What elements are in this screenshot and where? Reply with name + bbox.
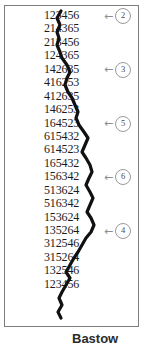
permutation-row: 123456 bbox=[44, 278, 100, 291]
arrow-left-icon: ← bbox=[104, 64, 113, 75]
callout-bubble: 6 bbox=[115, 169, 131, 185]
arrow-left-icon: ← bbox=[104, 118, 113, 129]
permutation-word: 213456 bbox=[44, 36, 79, 49]
permutation-word: 142635 bbox=[44, 63, 79, 76]
permutation-diagram-figure: 1234562143652134561243651426354162534126… bbox=[0, 0, 147, 348]
permutation-word: 416253 bbox=[44, 76, 79, 89]
permutation-row: 214365 bbox=[44, 22, 100, 35]
permutation-row: 123456 bbox=[44, 9, 100, 22]
figure-caption: Bastow bbox=[72, 331, 147, 348]
callout-5: ←5 bbox=[104, 117, 131, 131]
permutation-row: 146253 bbox=[44, 103, 100, 116]
permutation-row: 132546 bbox=[44, 264, 100, 277]
permutation-row: 315264 bbox=[44, 251, 100, 264]
permutation-word: 123456 bbox=[44, 9, 79, 22]
permutation-word: 164523 bbox=[44, 117, 79, 130]
permutation-word: 315264 bbox=[44, 251, 79, 264]
permutation-word: 516342 bbox=[44, 197, 79, 210]
permutation-word: 614523 bbox=[44, 143, 79, 156]
permutation-row: 164523 bbox=[44, 117, 100, 130]
permutation-word: 412635 bbox=[44, 90, 79, 103]
permutation-row: 124365 bbox=[44, 49, 100, 62]
callout-2: ←2 bbox=[104, 9, 131, 23]
permutation-row: 213456 bbox=[44, 36, 100, 49]
arrow-left-icon: ← bbox=[104, 11, 113, 22]
permutation-row: 416253 bbox=[44, 76, 100, 89]
permutation-word: 165432 bbox=[44, 157, 79, 170]
permutation-word: 124365 bbox=[44, 49, 79, 62]
permutation-word: 156342 bbox=[44, 170, 79, 183]
permutation-word: 214365 bbox=[44, 22, 79, 35]
permutation-word: 153624 bbox=[44, 211, 79, 224]
caption-text: Bastow bbox=[72, 331, 147, 346]
permutation-word: 123456 bbox=[44, 278, 79, 291]
permutation-word: 615432 bbox=[44, 130, 79, 143]
callout-bubble: 4 bbox=[115, 223, 131, 239]
permutation-word: 146253 bbox=[44, 103, 79, 116]
callout-bubble: 2 bbox=[115, 8, 131, 24]
permutation-row: 516342 bbox=[44, 197, 100, 210]
permutation-row: 615432 bbox=[44, 130, 100, 143]
callout-bubble: 3 bbox=[115, 62, 131, 78]
permutation-row: 412635 bbox=[44, 90, 100, 103]
permutation-row: 135264 bbox=[44, 224, 100, 237]
permutation-word: 513624 bbox=[44, 184, 79, 197]
callout-3: ←3 bbox=[104, 63, 131, 77]
permutation-row: 156342 bbox=[44, 170, 100, 183]
permutation-word: 312546 bbox=[44, 237, 79, 250]
permutation-word-list: 1234562143652134561243651426354162534126… bbox=[44, 9, 100, 291]
permutation-row: 312546 bbox=[44, 237, 100, 250]
callout-6: ←6 bbox=[104, 170, 131, 184]
permutation-row: 142635 bbox=[44, 63, 100, 76]
arrow-left-icon: ← bbox=[104, 226, 113, 237]
callout-bubble: 5 bbox=[115, 116, 131, 132]
arrow-left-icon: ← bbox=[104, 172, 113, 183]
permutation-word: 132546 bbox=[44, 264, 79, 277]
permutation-word: 135264 bbox=[44, 224, 79, 237]
permutation-row: 513624 bbox=[44, 184, 100, 197]
permutation-row: 614523 bbox=[44, 143, 100, 156]
callout-4: ←4 bbox=[104, 224, 131, 238]
permutation-row: 165432 bbox=[44, 157, 100, 170]
permutation-row: 153624 bbox=[44, 211, 100, 224]
